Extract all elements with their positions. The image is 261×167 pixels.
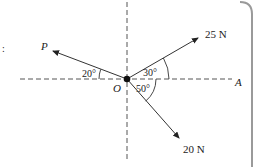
- label-origin: O: [113, 82, 121, 94]
- angle-arc-20: [99, 69, 101, 79]
- angle-label-30: 30°: [143, 67, 157, 78]
- label-p: P: [40, 40, 48, 52]
- angle-label-20: 20°: [82, 68, 96, 79]
- angle-arc-30: [163, 58, 169, 79]
- label-axis-a: A: [234, 76, 242, 88]
- label-25n: 25 N: [205, 28, 227, 40]
- edge-mark: :: [2, 43, 5, 54]
- label-20n: 20 N: [183, 143, 205, 155]
- force-20n-arrow: [127, 79, 179, 138]
- angle-label-50: 50°: [136, 83, 150, 94]
- frame-border: [240, 2, 252, 167]
- force-diagram: : P 25 N 20 N O A 20° 30° 50°: [0, 0, 261, 167]
- origin-point: [124, 76, 131, 83]
- force-25n-arrow: [127, 38, 198, 79]
